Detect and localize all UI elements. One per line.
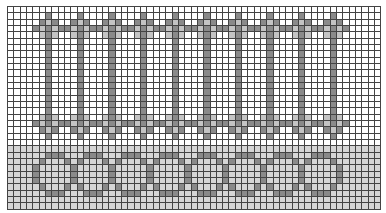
grid-cell [375, 203, 381, 209]
pattern-grid [7, 6, 381, 210]
